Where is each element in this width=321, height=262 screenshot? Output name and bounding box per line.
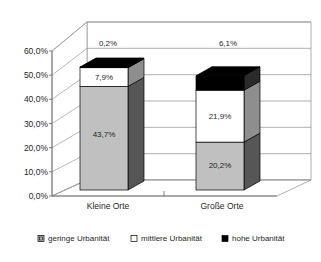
legend-label-hohe-urbanitaet[interactable]: hohe Urbanität (232, 234, 285, 243)
bar1-high-label: 0,2% (99, 39, 117, 48)
legend-label-mittlere-urbanitaet[interactable]: mittlere Urbanität (141, 234, 203, 243)
y-tick-label: 40,0% (24, 94, 49, 104)
x-tick-label-kleine-orte: Kleine Orte (87, 201, 130, 211)
bar2-high-label: 6,1% (219, 39, 237, 48)
bar2-mid-side (244, 81, 260, 142)
x-tick-label-grosse-orte: Große Orte (201, 201, 244, 211)
bar2-low-label: 20,2% (209, 161, 232, 170)
bar1-low-label: 43,7% (93, 130, 116, 139)
legend-swatch-geringe-urbanitaet[interactable] (38, 236, 44, 242)
bar2-high-front[interactable] (196, 76, 244, 91)
y-tick-label: 20,0% (24, 143, 49, 153)
legend-swatch-mittlere-urbanitaet[interactable] (131, 236, 137, 242)
legend: geringe Urbanität mittlere Urbanität hoh… (38, 234, 285, 243)
stacked-column-chart-3d: 60,0% 50,0% 40,0% 30,0% 20,0% 10,0% 0,0% (0, 0, 321, 262)
legend-label-geringe-urbanitaet[interactable]: geringe Urbanität (48, 234, 110, 243)
y-tick-label: 10,0% (24, 167, 49, 177)
y-tick-label: 30,0% (24, 119, 49, 129)
legend-swatch-hohe-urbanitaet[interactable] (222, 236, 228, 242)
y-tick-label: 50,0% (24, 70, 49, 80)
chart-container: 60,0% 50,0% 40,0% 30,0% 20,0% 10,0% 0,0% (0, 0, 321, 262)
bar2-low-side (244, 133, 260, 190)
bar-group-grosse-orte[interactable] (196, 67, 260, 190)
bar2-mid-label: 21,9% (209, 112, 232, 121)
y-tick-label: 60,0% (24, 46, 49, 56)
x-axis-labels: Kleine Orte Große Orte (87, 201, 244, 211)
y-axis-labels: 60,0% 50,0% 40,0% 30,0% 20,0% 10,0% 0,0% (24, 46, 49, 201)
bar1-low-side (128, 77, 144, 190)
y-tick-label: 0,0% (29, 191, 49, 201)
bar1-mid-label: 7,9% (95, 73, 113, 82)
